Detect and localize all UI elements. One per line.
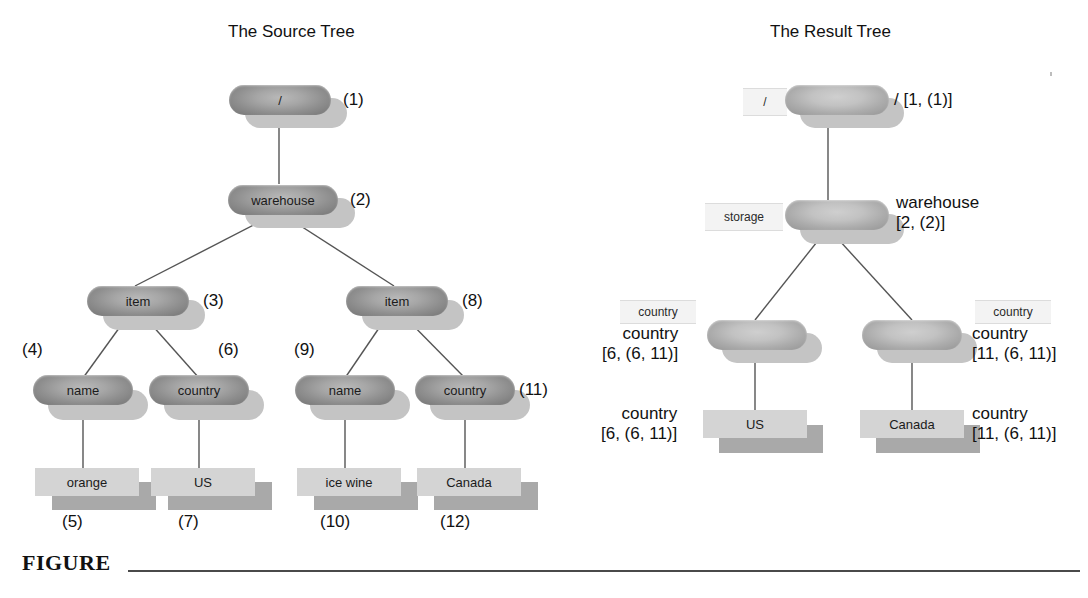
- result-leaf-us[interactable]: US: [703, 410, 807, 438]
- result-label-country-right: country [11, (6, 11)]: [972, 324, 1056, 364]
- figure-caption-word: FIGURE: [22, 550, 111, 576]
- source-node-6-label: country: [178, 383, 221, 398]
- result-leaf-us-label: US: [746, 417, 764, 432]
- source-tag-2: (2): [350, 190, 371, 210]
- result-label-root: / [1, (1)]: [894, 90, 953, 110]
- source-tag-4: (4): [22, 340, 43, 360]
- source-leaf-7[interactable]: US: [151, 468, 255, 496]
- result-node-country-left[interactable]: [707, 320, 807, 350]
- source-tag-8: (8): [462, 291, 483, 311]
- figure-footer: FIGURE: [0, 548, 1088, 598]
- result-leaf-canada[interactable]: Canada: [860, 410, 964, 438]
- result-tree-title: The Result Tree: [770, 22, 891, 42]
- source-node-8[interactable]: item: [346, 286, 448, 316]
- source-tag-1: (1): [343, 90, 364, 110]
- figure-canvas: The Source Tree The Result Tree / (1) wa…: [0, 0, 1088, 598]
- source-node-4-label: name: [67, 383, 100, 398]
- source-node-3[interactable]: item: [87, 286, 189, 316]
- source-leaf-12-label: Canada: [446, 475, 492, 490]
- source-node-9-label: name: [329, 383, 362, 398]
- result-label-canada: country [11, (6, 11)]: [972, 404, 1056, 444]
- source-tag-11: (11): [519, 380, 548, 400]
- source-node-3-label: item: [126, 294, 151, 309]
- source-node-4[interactable]: name: [33, 375, 133, 405]
- source-tag-6: (6): [218, 340, 239, 360]
- result-node-root[interactable]: [785, 85, 889, 115]
- source-leaf-10[interactable]: ice wine: [297, 468, 401, 496]
- source-leaf-10-label: ice wine: [326, 475, 373, 490]
- result-box-country-left: country: [620, 300, 696, 324]
- source-node-9[interactable]: name: [295, 375, 395, 405]
- source-node-2[interactable]: warehouse: [228, 185, 338, 215]
- result-node-warehouse[interactable]: [785, 200, 889, 230]
- source-node-2-label: warehouse: [251, 193, 315, 208]
- source-leaf-12[interactable]: Canada: [417, 468, 521, 496]
- source-tree-title: The Source Tree: [228, 22, 355, 42]
- source-node-8-label: item: [385, 294, 410, 309]
- result-label-us: country [6, (6, 11)]: [601, 404, 677, 444]
- result-label-warehouse: warehouse [2, (2)]: [896, 193, 979, 233]
- source-tag-7: (7): [178, 512, 199, 532]
- source-node-6[interactable]: country: [149, 375, 249, 405]
- source-leaf-5[interactable]: orange: [35, 468, 139, 496]
- source-node-11-label: country: [444, 383, 487, 398]
- source-node-11[interactable]: country: [415, 375, 515, 405]
- source-node-1[interactable]: /: [229, 85, 331, 115]
- result-leaf-canada-label: Canada: [889, 417, 935, 432]
- source-tag-12: (12): [440, 512, 470, 532]
- scan-speck: [1050, 72, 1052, 76]
- source-tag-5: (5): [62, 512, 83, 532]
- source-tag-10: (10): [320, 512, 350, 532]
- result-box-root: /: [743, 88, 787, 116]
- result-label-country-left: country [6, (6, 11)]: [602, 324, 678, 364]
- result-box-country-right: country: [975, 300, 1051, 324]
- source-tag-9: (9): [294, 340, 315, 360]
- source-node-1-label: /: [278, 93, 282, 108]
- source-leaf-7-label: US: [194, 475, 212, 490]
- source-leaf-5-label: orange: [67, 475, 107, 490]
- source-tag-3: (3): [203, 291, 224, 311]
- result-node-country-right[interactable]: [862, 320, 962, 350]
- figure-rule: [128, 570, 1080, 572]
- result-box-warehouse: storage: [705, 203, 783, 231]
